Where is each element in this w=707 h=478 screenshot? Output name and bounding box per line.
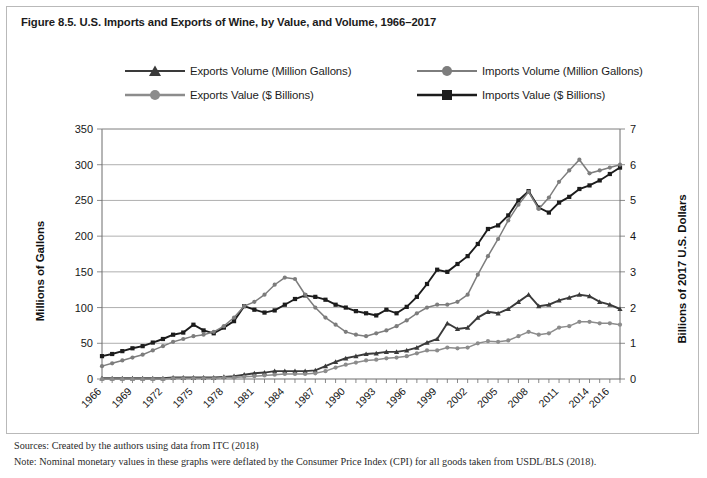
data-point — [445, 321, 450, 326]
data-point — [567, 324, 571, 328]
sources-note: Sources: Created by the authors using da… — [6, 438, 699, 454]
data-point — [222, 375, 226, 379]
data-point — [476, 242, 480, 246]
x-tick-label: 2016 — [586, 385, 611, 410]
data-point — [252, 300, 256, 304]
data-point — [486, 227, 490, 231]
y-tick-label-right: 1 — [630, 337, 636, 349]
data-point — [496, 340, 500, 344]
data-point — [120, 358, 124, 362]
data-point — [557, 325, 561, 329]
data-point — [242, 304, 246, 308]
data-point — [384, 328, 388, 332]
data-point — [344, 305, 348, 309]
data-point — [130, 355, 134, 359]
data-point — [598, 168, 602, 172]
legend-item-exports-value[interactable]: Exports Value ($ Billions) — [125, 88, 417, 102]
legend-label-exports-value: Exports Value ($ Billions) — [190, 89, 314, 101]
data-point — [557, 180, 561, 184]
data-point — [415, 351, 419, 355]
figure-notes: Sources: Created by the authors using da… — [6, 438, 699, 470]
data-point — [354, 360, 358, 364]
data-point — [435, 268, 439, 272]
data-point — [405, 318, 409, 322]
data-point — [323, 298, 327, 302]
data-point — [537, 333, 541, 337]
x-tick-label: 1969 — [109, 385, 134, 410]
data-point — [486, 254, 490, 258]
x-tick-label: 1978 — [200, 385, 225, 410]
data-point — [273, 283, 277, 287]
data-point — [273, 373, 277, 377]
data-point — [394, 311, 398, 315]
legend-item-imports-volume[interactable]: Imports Volume (Million Gallons) — [417, 64, 643, 78]
data-point — [262, 310, 266, 314]
data-point — [445, 270, 449, 274]
data-point — [191, 323, 195, 327]
data-point — [181, 337, 185, 341]
data-point — [496, 237, 500, 241]
data-point — [293, 297, 297, 301]
legend-label-imports-volume: Imports Volume (Million Gallons) — [482, 65, 643, 77]
data-point — [435, 348, 439, 352]
data-point — [608, 172, 612, 176]
data-point — [120, 377, 124, 381]
legend-item-imports-value[interactable]: Imports Value ($ Billions) — [417, 88, 605, 102]
legend-item-exports-volume[interactable]: Exports Volume (Million Gallons) — [125, 64, 417, 78]
data-point — [608, 165, 612, 169]
y-tick-label-right: 3 — [630, 266, 636, 278]
x-tick-label: 1996 — [383, 385, 408, 410]
data-point — [151, 340, 155, 344]
data-point — [344, 363, 348, 367]
data-point — [100, 354, 104, 358]
data-point — [354, 333, 358, 337]
y-tick-label-right: 0 — [630, 373, 636, 385]
data-point — [222, 324, 226, 328]
data-point — [293, 372, 297, 376]
data-point — [384, 356, 388, 360]
data-point — [455, 346, 459, 350]
data-point — [141, 353, 145, 357]
data-point — [130, 346, 134, 350]
data-point — [242, 375, 246, 379]
data-point — [374, 358, 378, 362]
data-point — [526, 190, 530, 194]
data-point — [425, 348, 429, 352]
data-point — [608, 321, 612, 325]
data-point — [171, 333, 175, 337]
y-tick-label-right: 2 — [630, 302, 636, 314]
data-point — [262, 373, 266, 377]
legend-row-2: Exports Value ($ Billions) Imports Value… — [125, 83, 645, 107]
legend-row-1: Exports Volume (Million Gallons) Imports… — [125, 59, 645, 83]
data-point — [334, 323, 338, 327]
data-point — [567, 195, 571, 199]
data-point — [252, 374, 256, 378]
data-point — [466, 293, 470, 297]
y-tick-label-left: 250 — [75, 194, 93, 206]
x-tick-label: 1966 — [78, 385, 103, 410]
data-point — [374, 331, 378, 335]
data-point — [151, 348, 155, 352]
legend-swatch-imports-volume — [417, 64, 477, 78]
data-point — [161, 344, 165, 348]
legend-swatch-imports-value — [417, 88, 477, 102]
legend-swatch-exports-value — [125, 88, 185, 102]
data-point — [587, 171, 591, 175]
data-point — [526, 292, 531, 297]
legend-label-imports-value: Imports Value ($ Billions) — [482, 89, 605, 101]
series-line-imports-volume-million-gallons — [102, 160, 620, 366]
chart-legend: Exports Volume (Million Gallons) Imports… — [125, 59, 645, 109]
data-point — [415, 295, 419, 299]
data-point — [313, 371, 317, 375]
legend-label-exports-volume: Exports Volume (Million Gallons) — [190, 65, 351, 77]
data-point — [130, 377, 134, 381]
x-tick-label: 2014 — [566, 385, 591, 410]
method-note: Note: Nominal monetary values in these g… — [6, 454, 699, 470]
data-point — [110, 377, 114, 381]
data-point — [405, 305, 409, 309]
data-point — [212, 376, 216, 380]
data-point — [283, 303, 287, 307]
x-tick-label: 2005 — [475, 385, 500, 410]
data-point — [313, 305, 317, 309]
data-point — [506, 218, 510, 222]
